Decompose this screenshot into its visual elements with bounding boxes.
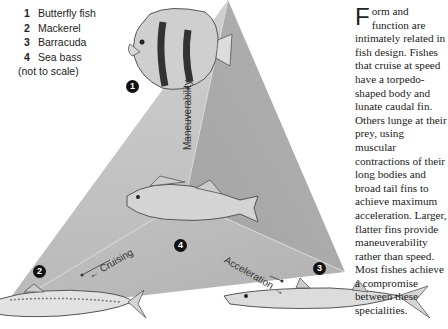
legend-item: 1Butterfly fish (24, 6, 96, 21)
marker-4: 4 (174, 239, 187, 252)
marker-1: 1 (126, 80, 139, 93)
body-text: orm and function are intimately related … (355, 5, 447, 316)
legend-note: (not to scale) (18, 64, 96, 79)
body-paragraph: Form and function are intimately related… (355, 5, 447, 318)
marker-3: 3 (313, 262, 326, 275)
legend-item: 4Sea bass (24, 50, 96, 65)
drop-cap: F (355, 6, 370, 28)
legend-item: 3Barracuda (24, 35, 96, 50)
axis-label-maneuverability: Maneuverability → (182, 67, 193, 150)
marker-2: 2 (33, 265, 46, 278)
legend: 1Butterfly fish 2Mackerel 3Barracuda 4Se… (24, 6, 96, 79)
legend-item: 2Mackerel (24, 21, 96, 36)
